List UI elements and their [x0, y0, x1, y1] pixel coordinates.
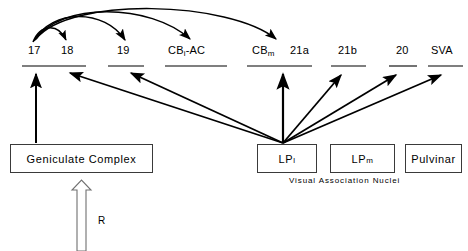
cortical-label-17: 17 — [28, 44, 41, 56]
arc-17-to-cbi-ac — [35, 12, 190, 40]
node-pulvinar[interactable]: Pulvinar — [405, 144, 462, 173]
geniculate-complex-label: Geniculate Complex — [27, 153, 137, 165]
arrow-lpl-to-20 — [283, 75, 396, 143]
lp-medial-subscript: m — [366, 156, 373, 165]
cbi-ac-suffix: -AC — [186, 44, 206, 56]
retina-label: R — [98, 215, 105, 226]
cortical-label-sva: SVA — [431, 44, 453, 56]
node-lp-medial[interactable]: LPm — [330, 144, 395, 173]
lpl-right-projections — [283, 75, 441, 143]
lp-lateral-base: LP — [278, 153, 293, 165]
lpl-left-projections — [70, 73, 283, 143]
cortical-label-20: 20 — [396, 44, 409, 56]
cortical-label-21b: 21b — [338, 44, 357, 56]
arrow-lpl-to-sva — [283, 75, 441, 143]
cortical-label-cbm: CBm — [252, 44, 275, 56]
arrow-lpl-to-21b — [283, 75, 341, 143]
arc-17-to-cbm — [36, 9, 276, 39]
lp-lateral-subscript: l — [293, 156, 295, 165]
lp-medial-base: LP — [352, 153, 367, 165]
retinal-input-arrow — [72, 180, 91, 251]
pulvinar-label: Pulvinar — [411, 153, 456, 165]
cortical-label-19: 19 — [117, 44, 130, 56]
connection-wiring — [0, 0, 468, 251]
arrow-lpl-to-19 — [131, 73, 283, 143]
corticocortical-arcs — [33, 9, 276, 42]
node-lp-lateral[interactable]: LPl — [257, 144, 317, 173]
cortical-label-21a: 21a — [290, 44, 309, 56]
visual-pathway-diagram: 17 18 19 CBi-AC CBm 21a 21b 20 SVA Genic… — [0, 0, 468, 251]
cbi-ac-base: CB — [168, 44, 184, 56]
cbi-ac-subscript: i — [184, 49, 186, 58]
visual-association-nuclei-caption: Visual Association Nuclei — [289, 176, 400, 185]
cortical-label-18: 18 — [61, 44, 74, 56]
arrow-lpl-to-18 — [70, 73, 283, 143]
node-geniculate-complex[interactable]: Geniculate Complex — [10, 144, 153, 173]
cbm-subscript: m — [268, 49, 275, 58]
cbm-base: CB — [252, 44, 268, 56]
cortical-label-cbi-ac: CBi-AC — [168, 44, 205, 56]
